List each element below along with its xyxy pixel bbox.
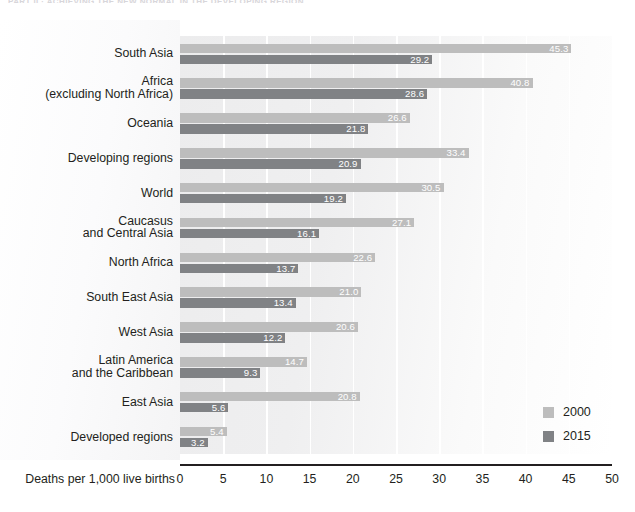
- bar-2015: 9.3: [180, 368, 260, 378]
- x-tick-label: 5: [220, 472, 227, 486]
- category-label: Latin America and the Caribbean: [3, 354, 173, 380]
- category-label: South Asia: [3, 47, 173, 60]
- legend-item: 2015: [543, 429, 591, 443]
- bar-row: West Asia20.612.2: [0, 315, 635, 350]
- legend-swatch: [543, 407, 554, 418]
- bar-group: 27.116.1: [180, 210, 612, 245]
- bar-value-label: 13.7: [276, 264, 298, 274]
- bar-2015: 3.2: [180, 438, 208, 448]
- bar-2000: 30.5: [180, 183, 444, 193]
- category-label: Africa (excluding North Africa): [3, 75, 173, 101]
- bar-rows: South Asia45.329.2Africa (excluding Nort…: [0, 36, 635, 454]
- bar-value-label: 20.9: [338, 159, 360, 169]
- x-tick-label: 20: [346, 472, 360, 486]
- bar-row: Oceania26.621.8: [0, 106, 635, 141]
- x-tick-label: 35: [476, 472, 490, 486]
- bar-2015: 21.8: [180, 124, 368, 134]
- bar-2000: 33.4: [180, 148, 469, 158]
- bar-value-label: 40.8: [510, 78, 532, 88]
- bar-value-label: 27.1: [392, 218, 414, 228]
- bar-value-label: 20.8: [338, 392, 360, 402]
- legend-label: 2000: [563, 405, 591, 419]
- category-label: West Asia: [3, 326, 173, 339]
- x-tick-label: 0: [177, 472, 184, 486]
- bar-value-label: 30.5: [421, 183, 443, 193]
- bar-value-label: 28.6: [405, 89, 427, 99]
- bar-value-label: 12.2: [263, 333, 285, 343]
- bar-row: Africa (excluding North Africa)40.828.6: [0, 71, 635, 106]
- bar-row: Latin America and the Caribbean14.79.3: [0, 350, 635, 385]
- category-label: Oceania: [3, 117, 173, 130]
- bar-group: 30.519.2: [180, 175, 612, 210]
- bar-value-label: 22.6: [353, 253, 375, 263]
- bar-group: 22.613.7: [180, 245, 612, 280]
- x-axis-ticks: 05101520253035404550: [180, 472, 612, 490]
- bar-2000: 45.3: [180, 44, 571, 54]
- x-tick-label: 30: [432, 472, 446, 486]
- bar-group: 45.329.2: [180, 36, 612, 71]
- neonatal-mortality-bar-chart: PART II · ACHIEVING THE NEW NORMAL IN TH…: [0, 0, 635, 512]
- bar-2000: 14.7: [180, 357, 307, 367]
- bar-row: South East Asia21.013.4: [0, 280, 635, 315]
- bar-2015: 13.4: [180, 298, 296, 308]
- bar-row: Caucasus and Central Asia27.116.1: [0, 210, 635, 245]
- bar-value-label: 5.6: [212, 403, 229, 413]
- bar-group: 14.79.3: [180, 350, 612, 385]
- legend: 20002015: [543, 405, 591, 453]
- category-label: Developed regions: [3, 430, 173, 443]
- category-label: North Africa: [3, 256, 173, 269]
- x-tick-label: 25: [389, 472, 403, 486]
- x-tick-label: 50: [605, 472, 619, 486]
- bar-2000: 27.1: [180, 218, 414, 228]
- bar-2000: 5.4: [180, 427, 227, 437]
- x-tick-label: 40: [519, 472, 533, 486]
- bar-value-label: 13.4: [274, 298, 296, 308]
- running-head: PART II · ACHIEVING THE NEW NORMAL IN TH…: [8, 0, 304, 3]
- legend-item: 2000: [543, 405, 591, 419]
- legend-label: 2015: [563, 429, 591, 443]
- bar-group: 33.420.9: [180, 141, 612, 176]
- bar-2015: 29.2: [180, 55, 432, 65]
- bar-value-label: 5.4: [210, 427, 227, 437]
- bar-group: 26.621.8: [180, 106, 612, 141]
- bar-2000: 40.8: [180, 78, 533, 88]
- bar-value-label: 20.6: [336, 322, 358, 332]
- bar-row: East Asia20.85.6: [0, 384, 635, 419]
- bar-2015: 20.9: [180, 159, 361, 169]
- bar-2000: 21.0: [180, 287, 361, 297]
- category-label: South East Asia: [3, 291, 173, 304]
- bar-2000: 20.8: [180, 392, 360, 402]
- x-axis-line: [180, 464, 612, 466]
- x-tick-label: 45: [562, 472, 576, 486]
- bar-2015: 5.6: [180, 403, 228, 413]
- bar-group: 21.013.4: [180, 280, 612, 315]
- bar-value-label: 33.4: [446, 148, 468, 158]
- bar-value-label: 3.2: [191, 438, 208, 448]
- x-tick-label: 10: [260, 472, 274, 486]
- bar-value-label: 21.0: [339, 287, 361, 297]
- bar-2000: 22.6: [180, 253, 375, 263]
- bar-value-label: 14.7: [285, 357, 307, 367]
- bar-row: North Africa22.613.7: [0, 245, 635, 280]
- bar-2015: 13.7: [180, 264, 298, 274]
- category-label: Caucasus and Central Asia: [3, 215, 173, 241]
- bar-row: World30.519.2: [0, 175, 635, 210]
- bar-row: Developed regions5.43.2: [0, 419, 635, 454]
- bar-group: 20.612.2: [180, 315, 612, 350]
- x-tick-label: 15: [303, 472, 317, 486]
- x-axis-title: Deaths per 1,000 live births: [5, 472, 175, 486]
- bar-value-label: 9.3: [244, 368, 261, 378]
- bar-value-label: 45.3: [549, 44, 571, 54]
- bar-2000: 20.6: [180, 322, 358, 332]
- bar-2015: 12.2: [180, 333, 285, 343]
- bar-value-label: 21.8: [346, 124, 368, 134]
- bar-value-label: 19.2: [324, 194, 346, 204]
- bar-2000: 26.6: [180, 113, 410, 123]
- bar-group: 40.828.6: [180, 71, 612, 106]
- bar-2015: 16.1: [180, 229, 319, 239]
- category-label: East Asia: [3, 395, 173, 408]
- bar-row: Developing regions33.420.9: [0, 141, 635, 176]
- bar-row: South Asia45.329.2: [0, 36, 635, 71]
- category-label: Developing regions: [3, 152, 173, 165]
- bar-2015: 19.2: [180, 194, 346, 204]
